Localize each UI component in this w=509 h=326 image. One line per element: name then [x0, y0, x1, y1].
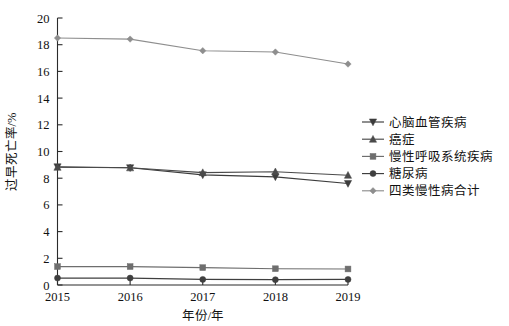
data-point-marker — [200, 276, 206, 282]
line-chart: 02468101214161820 20152016201720182019 过… — [0, 0, 509, 326]
data-point-marker — [345, 266, 351, 272]
legend-label-3: 慢性呼吸系统疾病 — [389, 149, 493, 164]
x-tick-label: 2019 — [336, 290, 361, 304]
legend-marker-3 — [370, 154, 376, 160]
y-tick-label: 16 — [37, 65, 50, 79]
y-tick-label: 4 — [43, 225, 50, 239]
chart-figure: 02468101214161820 20152016201720182019 过… — [0, 0, 509, 326]
y-tick-label: 8 — [43, 172, 49, 186]
y-tick-label: 2 — [43, 252, 49, 266]
data-point-marker — [272, 277, 278, 283]
x-tick-label: 2017 — [190, 290, 215, 304]
data-point-marker — [272, 266, 278, 272]
data-point-marker — [200, 265, 206, 271]
y-tick-label: 10 — [37, 145, 50, 159]
data-point-marker — [127, 275, 133, 281]
legend-label-2: 癌症 — [389, 132, 415, 147]
data-point-marker — [127, 264, 133, 270]
y-tick-label: 12 — [37, 118, 50, 132]
legend-marker-4 — [370, 171, 376, 177]
x-axis-title: 年份/年 — [182, 309, 224, 323]
data-point-marker — [345, 276, 351, 282]
x-tick-label: 2016 — [118, 290, 143, 304]
legend-label-1: 心脑血管疾病 — [389, 115, 467, 130]
legend-label-5: 四类慢性病合计 — [389, 183, 480, 198]
y-axis-title: 过早死亡率/% — [4, 113, 19, 192]
y-tick-label: 18 — [37, 38, 50, 52]
x-tick-label: 2018 — [263, 290, 288, 304]
y-tick-label: 14 — [37, 92, 50, 106]
y-tick-label: 20 — [37, 12, 50, 26]
x-tick-label: 2015 — [45, 290, 70, 304]
legend-label-4: 糖尿病 — [389, 166, 428, 181]
y-tick-label: 6 — [43, 198, 49, 212]
data-point-marker — [55, 264, 61, 270]
data-point-marker — [55, 275, 61, 281]
